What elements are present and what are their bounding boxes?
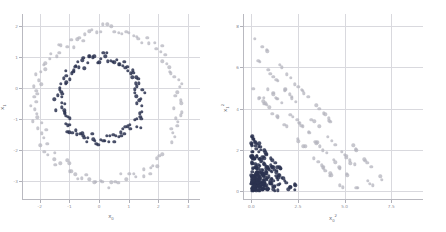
data-point <box>317 125 320 128</box>
data-point <box>33 108 36 111</box>
data-point <box>180 102 183 105</box>
data-point <box>161 153 164 156</box>
data-point <box>86 136 89 139</box>
data-point <box>39 144 42 147</box>
data-point <box>278 182 281 185</box>
x-tick-mark <box>345 200 346 203</box>
data-point <box>176 120 179 123</box>
data-point <box>289 76 292 79</box>
y-tick-mark <box>240 109 243 110</box>
data-point <box>34 73 37 76</box>
data-point <box>54 163 57 166</box>
y-tick-label: -3 <box>6 179 18 184</box>
data-point <box>285 181 288 184</box>
data-point <box>261 45 264 48</box>
x-axis-title-right: x02 <box>329 213 337 223</box>
data-point <box>112 140 115 143</box>
data-point <box>334 143 337 146</box>
data-point <box>40 121 43 124</box>
x-tick-mark <box>391 200 392 203</box>
data-point <box>91 56 94 59</box>
y-tick-label: 2 <box>6 24 18 29</box>
data-point <box>168 66 171 69</box>
plot-area-right <box>243 14 423 200</box>
data-point <box>251 150 254 153</box>
data-point <box>153 41 156 44</box>
data-point <box>349 162 352 165</box>
two-panel-scatter-figure: x0 x1 -2-10123-3-2-1012 x02 x12 0.02.55.… <box>0 0 446 232</box>
y-tick-mark <box>19 26 22 27</box>
data-point <box>63 102 66 105</box>
data-point <box>143 91 146 94</box>
data-point <box>87 29 90 32</box>
data-point <box>133 88 136 91</box>
y-axis-title-left: x1 <box>0 104 7 110</box>
data-point <box>31 120 34 123</box>
data-point <box>85 173 88 176</box>
data-point <box>176 91 179 94</box>
data-point <box>330 173 333 176</box>
data-point <box>139 126 142 129</box>
data-point <box>53 151 56 154</box>
data-point <box>76 177 79 180</box>
data-point <box>106 22 109 25</box>
data-point <box>101 22 104 25</box>
data-point <box>109 180 112 183</box>
y-tick-mark <box>19 57 22 58</box>
data-point <box>267 68 270 71</box>
data-point <box>270 112 273 115</box>
y-tick-mark <box>240 67 243 68</box>
data-point <box>52 158 55 161</box>
data-point <box>127 172 130 175</box>
data-point <box>54 108 57 111</box>
grid-line-horizontal <box>22 119 200 120</box>
data-point <box>80 177 83 180</box>
data-point <box>58 161 61 164</box>
data-point <box>113 30 116 33</box>
y-tick-label: 2 <box>227 147 239 152</box>
data-point <box>129 72 132 75</box>
data-point <box>70 38 73 41</box>
data-point <box>142 168 145 171</box>
data-point <box>74 173 77 176</box>
y-tick-label: 6 <box>227 65 239 70</box>
data-point <box>99 30 102 33</box>
data-point <box>70 170 73 173</box>
data-point <box>68 78 71 81</box>
data-point <box>171 131 174 134</box>
data-point <box>312 157 315 160</box>
data-point <box>83 32 86 35</box>
data-point <box>280 66 283 69</box>
grid-line-vertical <box>99 14 100 200</box>
data-point <box>273 161 276 164</box>
grid-line-horizontal <box>243 150 423 151</box>
data-point <box>119 172 122 175</box>
x-tick-label: 0.0 <box>248 204 255 209</box>
y-tick-label: 0 <box>6 86 18 91</box>
x-tick-label: 2.5 <box>295 204 302 209</box>
data-point <box>101 180 104 183</box>
y-tick-label: 8 <box>227 24 239 29</box>
data-point <box>172 107 175 110</box>
data-point <box>48 57 51 60</box>
data-point <box>107 140 110 143</box>
x-tick-label: 5.0 <box>341 204 348 209</box>
data-point <box>40 131 43 134</box>
data-point <box>262 157 265 160</box>
data-point <box>307 95 310 98</box>
x-tick-mark <box>99 200 100 203</box>
grid-line-vertical <box>40 14 41 200</box>
y-tick-label: 4 <box>227 106 239 111</box>
data-point <box>115 58 118 61</box>
grid-line-horizontal <box>243 191 423 192</box>
data-point <box>289 186 292 189</box>
y-tick-mark <box>240 191 243 192</box>
grid-line-horizontal <box>243 67 423 68</box>
x-tick-label: 2 <box>157 204 160 209</box>
data-point <box>46 153 49 156</box>
data-point <box>81 39 84 42</box>
data-point <box>128 123 131 126</box>
y-tick-label: -1 <box>6 117 18 122</box>
data-point <box>123 60 126 63</box>
y-tick-mark <box>240 150 243 151</box>
